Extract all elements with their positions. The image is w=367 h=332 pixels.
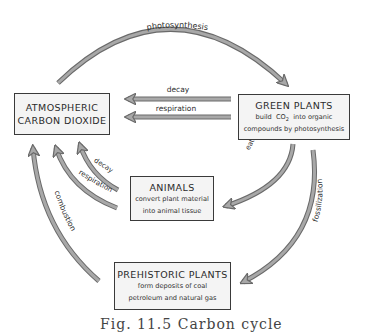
animals-sub1: convert plant material [131,193,213,205]
animals-title: ANIMALS [131,182,213,193]
sub-text: into organic [293,113,332,121]
green-plants-box: GREEN PLANTS build CO2 into organic comp… [238,94,350,140]
co2-text: CO [276,113,286,121]
plants-respiration-label: respiration [156,104,197,113]
green-plants-title: GREEN PLANTS [239,100,349,111]
co2-subscript: 2 [286,116,289,122]
atmospheric-title-line2: CARBON DIOXIDE [15,115,109,126]
atmospheric-co2-box: ATMOSPHERIC CARBON DIOXIDE [14,93,110,135]
prehistoric-plants-box: PREHISTORIC PLANTS form deposits of coal… [114,262,231,310]
prehistoric-title: PREHISTORIC PLANTS [115,269,230,280]
photosynthesis-arrow [58,29,286,84]
prehistoric-sub1: form deposits of coal [115,280,230,292]
sub-text: build [256,113,272,121]
atmospheric-title-line1: ATMOSPHERIC [15,102,109,113]
plants-decay-label: decay [167,85,190,94]
prehistoric-sub2: petroleum and natural gas [115,292,230,304]
animals-sub2: into animal tissue [131,205,213,217]
figure-caption: Fig. 11.5 Carbon cycle [100,316,283,332]
green-plants-sub1: build CO2 into organic [239,111,349,125]
fossilization-arrow [243,150,315,282]
green-plants-sub2: compounds by photosynthesis [239,125,349,134]
animals-box: ANIMALS convert plant material into anim… [130,176,214,221]
eaten-arrow [226,144,293,206]
